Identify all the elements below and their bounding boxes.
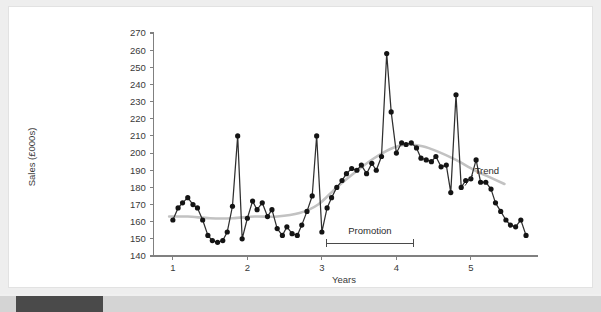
data-point [399, 140, 404, 145]
y-axis-title: Sales (£000s) [26, 128, 37, 187]
data-point [314, 133, 319, 138]
data-point [245, 216, 250, 221]
x-tick-label: 1 [170, 262, 175, 273]
data-point [409, 140, 414, 145]
data-point [438, 164, 443, 169]
y-tick-label: 210 [130, 130, 146, 141]
data-point [424, 157, 429, 162]
data-point [190, 202, 195, 207]
y-tick-label: 180 [130, 182, 146, 193]
data-point [324, 205, 329, 210]
chart-canvas: 1401501601701801902002102202302402502602… [9, 7, 592, 287]
data-point [180, 200, 185, 205]
trend-label: Trend [475, 165, 499, 176]
data-point [488, 187, 493, 192]
y-tick-label: 140 [130, 250, 146, 261]
sales-series-line [173, 54, 526, 243]
data-point [448, 190, 453, 195]
data-point [403, 142, 408, 147]
data-point [359, 162, 364, 167]
data-point [275, 226, 280, 231]
data-point [225, 229, 230, 234]
data-point [210, 238, 215, 243]
sales-series-markers [170, 51, 528, 245]
y-tick-label: 220 [130, 113, 146, 124]
data-point [478, 180, 483, 185]
data-point [170, 217, 175, 222]
horizontal-scrollbar-thumb[interactable] [16, 296, 103, 312]
data-point [389, 109, 394, 114]
x-axis: 12345 [154, 256, 538, 273]
data-point [250, 199, 255, 204]
data-point [185, 195, 190, 200]
data-point [195, 205, 200, 210]
data-point [280, 233, 285, 238]
data-point [235, 133, 240, 138]
y-tick-label: 270 [130, 27, 146, 38]
y-tick-label: 170 [130, 199, 146, 210]
data-point [493, 200, 498, 205]
x-tick-label: 4 [394, 262, 399, 273]
promotion-label: Promotion [348, 225, 391, 236]
data-point [200, 217, 205, 222]
data-point [503, 217, 508, 222]
data-point [433, 154, 438, 159]
data-point [304, 209, 309, 214]
data-point [240, 236, 245, 241]
data-point [364, 171, 369, 176]
data-point [453, 92, 458, 97]
data-point [269, 207, 274, 212]
data-point [459, 185, 464, 190]
y-tick-label: 240 [130, 79, 146, 90]
data-point [513, 224, 518, 229]
sales-trend-chart[interactable]: 1401501601701801902002102202302402502602… [9, 7, 592, 287]
promotion-bracket [326, 239, 413, 247]
data-point [339, 178, 344, 183]
data-point [474, 157, 479, 162]
data-point [354, 168, 359, 173]
y-tick-label: 160 [130, 216, 146, 227]
slide-page: 1401501601701801902002102202302402502602… [9, 7, 592, 287]
x-tick-label: 5 [468, 262, 473, 273]
x-axis-tick-labels: 12345 [170, 262, 473, 273]
data-point [523, 233, 528, 238]
y-tick-label: 200 [130, 147, 146, 158]
data-point [369, 161, 374, 166]
y-tick-label: 190 [130, 165, 146, 176]
data-point [394, 150, 399, 155]
data-point [444, 162, 449, 167]
data-point [310, 193, 315, 198]
data-point [518, 217, 523, 222]
x-axis-ticks [173, 256, 471, 260]
data-point [254, 207, 259, 212]
x-tick-label: 2 [245, 262, 250, 273]
data-point [215, 240, 220, 245]
y-tick-label: 230 [130, 96, 146, 107]
data-point [334, 185, 339, 190]
data-point [299, 223, 304, 228]
trend-curve [169, 144, 504, 218]
data-point [429, 159, 434, 164]
data-point [329, 195, 334, 200]
data-point [205, 233, 210, 238]
data-point [498, 209, 503, 214]
promotion-annotation: Promotion [326, 225, 413, 247]
data-point [265, 214, 270, 219]
y-axis-tick-labels: 1401501601701801902002102202302402502602… [130, 27, 146, 261]
data-point [319, 229, 324, 234]
data-point [418, 156, 423, 161]
data-point [483, 180, 488, 185]
y-axis-ticks [150, 33, 154, 256]
y-axis: 1401501601701801902002102202302402502602… [130, 27, 154, 261]
x-axis-title: Years [332, 274, 356, 285]
slide-editor-surface: 1401501601701801902002102202302402502602… [0, 0, 601, 294]
data-point [344, 171, 349, 176]
data-point [175, 205, 180, 210]
data-point [349, 166, 354, 171]
data-point [295, 233, 300, 238]
data-point [230, 204, 235, 209]
y-tick-label: 250 [130, 62, 146, 73]
x-tick-label: 3 [319, 262, 324, 273]
y-tick-label: 150 [130, 233, 146, 244]
y-tick-label: 260 [130, 45, 146, 56]
